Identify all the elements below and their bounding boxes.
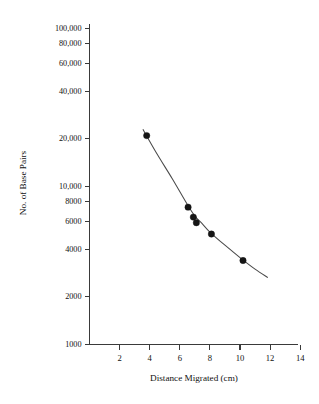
- x-axis-ticks: 2468101214: [117, 345, 305, 363]
- y-axis-tick-label: 2000: [65, 292, 81, 301]
- data-point: [208, 231, 214, 237]
- x-axis-tick-label: 8: [208, 353, 212, 363]
- data-point: [143, 132, 149, 138]
- y-axis-tick-label: 60,000: [59, 59, 82, 68]
- y-axis-title: No. of Base Pairs: [18, 150, 28, 215]
- standard-curve-line: [143, 129, 268, 277]
- data-point: [190, 214, 196, 220]
- x-axis-tick-label: 14: [296, 353, 305, 363]
- y-axis-tick-label: 4000: [65, 245, 81, 254]
- x-axis-tick-label: 2: [117, 353, 121, 363]
- y-axis-tick-label: 40,000: [59, 87, 82, 96]
- data-point-group: [143, 132, 246, 263]
- figure-container: 100,00080,00060,00040,00020,00010,000800…: [0, 0, 319, 404]
- data-point: [240, 257, 246, 263]
- y-axis-tick-label: 80,000: [59, 39, 82, 48]
- y-axis-tick-label: 8000: [65, 197, 81, 206]
- y-axis-tick-label: 100,000: [55, 24, 82, 33]
- y-axis-tick-label: 6000: [65, 217, 81, 226]
- x-axis-tick-label: 10: [236, 353, 245, 363]
- data-point: [185, 204, 191, 210]
- y-axis-ticks: 100,00080,00060,00040,00020,00010,000800…: [55, 24, 90, 349]
- x-axis-title: Distance Migrated (cm): [150, 373, 238, 383]
- x-axis-tick-label: 12: [266, 353, 275, 363]
- y-axis-tick-label: 20,000: [59, 134, 82, 143]
- x-axis-tick-label: 6: [178, 353, 183, 363]
- scatter-plot: 100,00080,00060,00040,00020,00010,000800…: [0, 0, 319, 404]
- x-axis-tick-label: 4: [148, 353, 153, 363]
- y-axis-tick-label: 1000: [65, 340, 81, 349]
- data-point: [193, 220, 199, 226]
- y-axis-tick-label: 10,000: [59, 182, 82, 191]
